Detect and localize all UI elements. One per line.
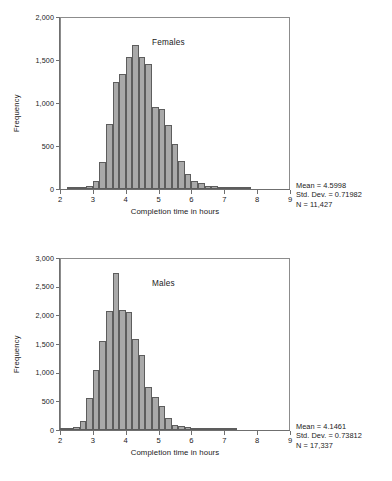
y-tick-males [56, 315, 60, 316]
y-tick-label-females: 1,500 [18, 56, 54, 65]
histogram-bar [165, 125, 172, 189]
x-tick-label-females: 6 [184, 195, 198, 204]
stats-n-females: N = 11,427 [296, 200, 362, 209]
histogram-bar [145, 387, 152, 430]
histogram-bar [224, 187, 231, 189]
histogram-bar [178, 426, 185, 430]
x-tick-label-males: 5 [152, 436, 166, 445]
histogram-bar [224, 428, 231, 430]
y-tick-females [56, 17, 60, 18]
histogram-bar [172, 144, 179, 189]
x-tick-males [290, 431, 291, 435]
y-tick-males [56, 258, 60, 259]
x-tick-label-females: 3 [86, 195, 100, 204]
x-tick-females [224, 190, 225, 194]
histogram-bar [191, 181, 198, 189]
y-tick-label-females: 500 [18, 142, 54, 151]
histogram-bar [218, 187, 225, 189]
chart-panel-females: Frequency Completion time in hours Femal… [0, 0, 392, 240]
chart-panel-males: Frequency Completion time in hours Males… [0, 241, 392, 481]
histogram-bar [126, 312, 133, 430]
y-tick-females [56, 146, 60, 147]
histogram-bar [86, 186, 93, 189]
x-tick-label-males: 9 [283, 436, 297, 445]
histogram-bar [86, 398, 93, 430]
x-axis-title-females: Completion time in hours [60, 207, 290, 216]
x-tick-males [224, 431, 225, 435]
x-tick-label-females: 2 [53, 195, 67, 204]
stats-n-males: N = 17,337 [296, 441, 362, 450]
y-tick-label-females: 0 [18, 185, 54, 194]
histogram-bar [119, 74, 126, 189]
histogram-bar [73, 427, 80, 430]
y-tick-label-males: 1,000 [18, 368, 54, 377]
x-tick-females [126, 190, 127, 194]
histogram-bar [237, 187, 244, 189]
x-tick-females [290, 190, 291, 194]
histogram-bar [119, 310, 126, 430]
x-tick-males [159, 431, 160, 435]
histogram-bar [99, 162, 106, 189]
histogram-bar [211, 186, 218, 189]
histogram-bar [211, 428, 218, 430]
y-tick-females [56, 103, 60, 104]
y-tick-males [56, 344, 60, 345]
histogram-bar [172, 425, 179, 430]
y-tick-label-males: 2,500 [18, 282, 54, 291]
histogram-bar [178, 161, 185, 189]
y-tick-label-males: 2,000 [18, 311, 54, 320]
figure-root: Frequency Completion time in hours Femal… [0, 0, 392, 481]
y-tick-females [56, 60, 60, 61]
x-tick-males [126, 431, 127, 435]
y-tick-label-males: 500 [18, 397, 54, 406]
histogram-bar [132, 45, 139, 189]
histogram-bar [126, 57, 133, 189]
x-tick-females [60, 190, 61, 194]
x-tick-females [257, 190, 258, 194]
x-tick-males [60, 431, 61, 435]
stats-std-females: Std. Dev. = 0.71982 [296, 190, 362, 199]
y-tick-label-females: 1,000 [18, 99, 54, 108]
histogram-bar [231, 428, 238, 430]
x-tick-label-females: 4 [119, 195, 133, 204]
y-tick-label-males: 1,500 [18, 340, 54, 349]
x-tick-label-males: 6 [184, 436, 198, 445]
series-title-females: Females [152, 38, 185, 47]
histogram-bar [244, 187, 251, 189]
stats-mean-males: Mean = 4.1461 [296, 422, 362, 431]
histogram-bar [80, 187, 87, 189]
series-title-males: Males [152, 279, 175, 288]
x-tick-males [93, 431, 94, 435]
stats-block-males: Mean = 4.1461 Std. Dev. = 0.73812 N = 17… [296, 422, 362, 450]
histogram-bar [80, 421, 87, 430]
histogram-bar [218, 428, 225, 430]
histogram-bar [99, 341, 106, 430]
x-tick-label-females: 9 [283, 195, 297, 204]
x-tick-label-females: 5 [152, 195, 166, 204]
x-tick-females [159, 190, 160, 194]
y-tick-males [56, 287, 60, 288]
bars-males [60, 258, 290, 430]
y-tick-label-males: 0 [18, 426, 54, 435]
x-tick-label-males: 4 [119, 436, 133, 445]
y-tick-label-females: 2,000 [18, 13, 54, 22]
x-tick-label-females: 7 [217, 195, 231, 204]
histogram-bar [132, 339, 139, 430]
x-axis-title-males: Completion time in hours [60, 448, 290, 457]
x-tick-females [93, 190, 94, 194]
histogram-bar [191, 428, 198, 430]
x-tick-label-males: 2 [53, 436, 67, 445]
stats-block-females: Mean = 4.5998 Std. Dev. = 0.71982 N = 11… [296, 181, 362, 209]
stats-mean-females: Mean = 4.5998 [296, 181, 362, 190]
x-tick-label-males: 7 [217, 436, 231, 445]
histogram-bar [145, 64, 152, 189]
x-tick-males [191, 431, 192, 435]
histogram-bar [73, 187, 80, 189]
y-tick-label-males: 3,000 [18, 254, 54, 263]
x-tick-label-males: 3 [86, 436, 100, 445]
y-tick-males [56, 373, 60, 374]
stats-std-males: Std. Dev. = 0.73812 [296, 431, 362, 440]
x-tick-males [257, 431, 258, 435]
x-tick-label-females: 8 [250, 195, 264, 204]
x-tick-label-males: 8 [250, 436, 264, 445]
